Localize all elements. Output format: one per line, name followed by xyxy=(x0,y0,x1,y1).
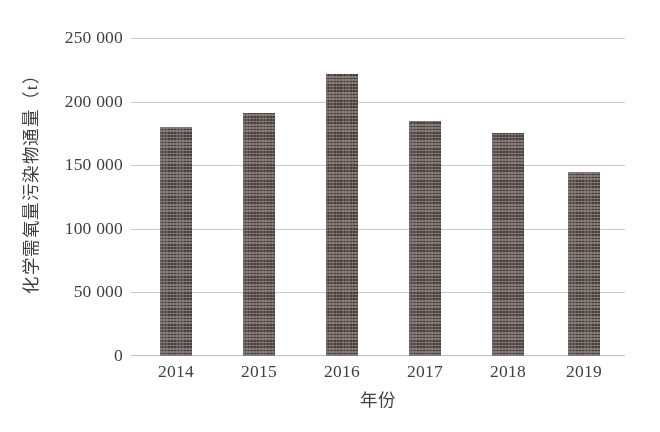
x-tick-label-2014: 2014 xyxy=(136,360,216,383)
x-axis-title: 年份 xyxy=(131,386,625,411)
y-tick-label: 50 000 xyxy=(13,284,123,302)
x-tick-label-2015: 2015 xyxy=(219,360,299,383)
bar-chart: 化学需氧量污染物通量（t） 250 000 200 000 150 000 10… xyxy=(0,0,660,432)
gridline-200000 xyxy=(131,102,625,103)
gridline-50000 xyxy=(131,292,625,293)
bar-2018 xyxy=(492,133,524,356)
x-tick-label-2018: 2018 xyxy=(468,360,548,383)
x-tick-label-2016: 2016 xyxy=(302,360,382,383)
gridline-150000 xyxy=(131,165,625,166)
plot-area xyxy=(131,38,625,356)
x-tick-label-2017: 2017 xyxy=(385,360,465,383)
bar-2015 xyxy=(243,113,275,356)
y-tick-label: 150 000 xyxy=(13,156,123,174)
bar-2017 xyxy=(409,121,441,356)
x-axis-tick-labels: 2014 2015 2016 2017 2018 2019 xyxy=(131,360,625,386)
bar-2016 xyxy=(326,74,358,356)
x-axis-line xyxy=(131,355,625,356)
gridline-250000 xyxy=(131,38,625,39)
y-tick-label: 200 000 xyxy=(13,93,123,111)
gridline-100000 xyxy=(131,229,625,230)
y-axis-tick-labels: 250 000 200 000 150 000 100 000 50 000 0 xyxy=(0,38,123,356)
y-tick-label: 250 000 xyxy=(13,29,123,47)
bar-2019 xyxy=(568,172,600,356)
y-tick-label: 0 xyxy=(13,347,123,365)
y-tick-label: 100 000 xyxy=(13,220,123,238)
x-tick-label-2019: 2019 xyxy=(544,360,624,383)
bar-2014 xyxy=(160,127,192,356)
